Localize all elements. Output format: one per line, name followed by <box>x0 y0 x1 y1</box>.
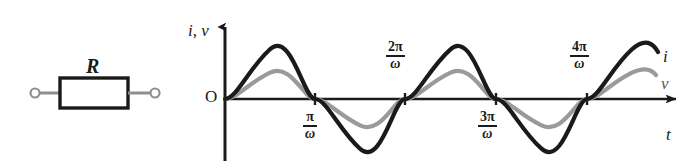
x-tick-label-2pi-over-omega: 2π ω <box>386 40 405 72</box>
curve-label-voltage: v <box>661 75 669 92</box>
x-axis-label: t <box>666 126 671 143</box>
figure-canvas: R i, v O t i v π ω 2π ω 3π ω 4π ω <box>0 0 698 165</box>
curve-label-current: i <box>663 48 668 65</box>
fraction-numerator: π <box>303 110 317 125</box>
fraction-denominator: ω <box>478 127 497 142</box>
fraction-numerator: 4π <box>570 40 589 55</box>
fraction-denominator: ω <box>303 127 317 142</box>
waveform-plot <box>0 0 698 165</box>
origin-label: O <box>205 88 217 105</box>
current-curve <box>225 43 658 152</box>
fraction-numerator: 2π <box>386 40 405 55</box>
fraction-denominator: ω <box>570 57 589 72</box>
fraction-denominator: ω <box>386 57 405 72</box>
y-axis-label: i, v <box>188 22 209 39</box>
resistor-label: R <box>86 56 99 76</box>
x-tick-label-4pi-over-omega: 4π ω <box>570 40 589 72</box>
x-tick-label-pi-over-omega: π ω <box>303 110 317 142</box>
x-tick-label-3pi-over-omega: 3π ω <box>478 110 497 142</box>
fraction-numerator: 3π <box>478 110 497 125</box>
